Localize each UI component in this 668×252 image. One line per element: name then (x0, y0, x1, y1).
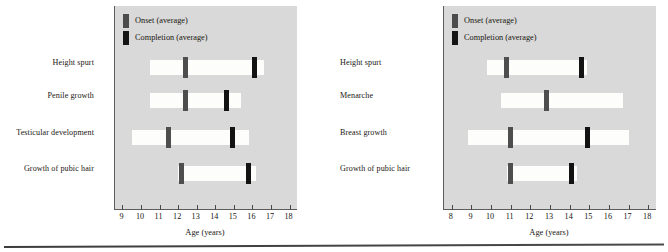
x-tick (452, 205, 453, 210)
range-bar (468, 130, 629, 145)
x-tick (511, 205, 512, 210)
completion-marker (252, 57, 257, 78)
x-tick (271, 205, 272, 210)
legend-row-completion: Completion (average) (123, 29, 208, 46)
x-tick-label: 8 (449, 212, 453, 221)
x-tick (589, 205, 590, 210)
onset-marker (166, 127, 171, 148)
completion-swatch-icon (452, 31, 458, 45)
onset-marker (183, 57, 188, 78)
axis-title-male: Age (years) (114, 228, 296, 237)
completion-marker (246, 163, 251, 184)
axis-title-female: Age (years) (443, 228, 655, 237)
x-tick (491, 205, 492, 210)
panel-female: Onset (average) Completion (average) Hei… (334, 0, 668, 252)
x-tick-label: 10 (136, 212, 144, 221)
onset-marker (508, 127, 513, 148)
x-tick-label: 16 (247, 212, 255, 221)
x-tick-label: 17 (266, 212, 274, 221)
x-tick-label: 14 (210, 212, 218, 221)
x-tick-label: 18 (643, 212, 651, 221)
row-label-testicular-development: Testicular development (16, 128, 94, 137)
x-tick (609, 205, 610, 210)
row-label-growth-of-pubic-hair: Growth of pubic hair (24, 164, 94, 173)
onset-swatch-icon (123, 14, 129, 28)
x-axis-male (115, 209, 297, 210)
onset-swatch-icon (452, 14, 458, 28)
range-bar (501, 93, 623, 108)
x-tick (234, 205, 235, 210)
x-tick-label: 9 (468, 212, 472, 221)
x-tick (215, 205, 216, 210)
range-bar (507, 166, 578, 181)
x-tick-label: 16 (604, 212, 612, 221)
x-tick-label: 13 (545, 212, 553, 221)
legend-row-completion: Completion (average) (452, 29, 537, 46)
panel-male: Onset (average) Completion (average) Hei… (0, 0, 334, 252)
range-bar (150, 60, 263, 75)
range-bar (178, 166, 256, 181)
completion-marker (224, 90, 229, 111)
row-label-penile-growth: Penile growth (48, 91, 94, 100)
x-tick (550, 205, 551, 210)
legend-male: Onset (average) Completion (average) (123, 12, 208, 46)
onset-marker (504, 57, 509, 78)
x-tick (160, 205, 161, 210)
legend-row-onset: Onset (average) (452, 12, 537, 29)
x-tick (290, 205, 291, 210)
x-tick (629, 205, 630, 210)
x-tick (471, 205, 472, 210)
x-tick-label: 15 (229, 212, 237, 221)
row-label-height-spurt: Height spurt (53, 58, 94, 67)
legend-female: Onset (average) Completion (average) (452, 12, 537, 46)
x-tick (178, 205, 179, 210)
legend-onset-label: Onset (average) (135, 16, 188, 25)
x-tick (648, 205, 649, 210)
x-tick-label: 9 (119, 212, 123, 221)
x-tick-label: 15 (584, 212, 592, 221)
completion-marker (579, 57, 584, 78)
x-tick-label: 11 (506, 212, 514, 221)
puberty-timeline-figure: Onset (average) Completion (average) Hei… (0, 0, 668, 252)
legend-row-onset: Onset (average) (123, 12, 208, 29)
x-tick-label: 10 (486, 212, 494, 221)
row-label-height-spurt: Height spurt (340, 58, 381, 67)
x-tick (252, 205, 253, 210)
range-bar (487, 60, 587, 75)
x-tick-label: 18 (284, 212, 292, 221)
onset-marker (183, 90, 188, 111)
x-tick-label: 17 (623, 212, 631, 221)
onset-marker (508, 163, 513, 184)
x-tick (530, 205, 531, 210)
onset-marker (179, 163, 184, 184)
x-tick (122, 205, 123, 210)
completion-marker (585, 127, 590, 148)
plot-area-female: Onset (average) Completion (average) (443, 6, 656, 210)
plot-area-male: Onset (average) Completion (average) (114, 6, 297, 210)
onset-marker (544, 90, 549, 111)
x-tick-label: 12 (525, 212, 533, 221)
x-tick-label: 11 (155, 212, 163, 221)
completion-marker (569, 163, 574, 184)
legend-completion-label: Completion (average) (135, 33, 208, 42)
x-tick-label: 12 (173, 212, 181, 221)
x-tick (197, 205, 198, 210)
x-tick-label: 13 (192, 212, 200, 221)
completion-marker (230, 127, 235, 148)
x-tick (570, 205, 571, 210)
row-label-menarche: Menarche (340, 91, 373, 100)
legend-completion-label: Completion (average) (464, 33, 537, 42)
row-label-growth-of-pubic-hair: Growth of pubic hair (340, 164, 410, 173)
legend-onset-label: Onset (average) (464, 16, 517, 25)
x-tick-label: 14 (565, 212, 573, 221)
row-label-breast-growth: Breast growth (340, 128, 387, 137)
x-tick (141, 205, 142, 210)
completion-swatch-icon (123, 31, 129, 45)
